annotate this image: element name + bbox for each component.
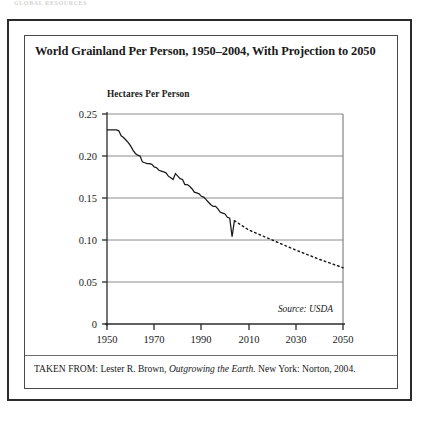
y-tick-label: 0.05 <box>79 277 97 288</box>
y-tick-label: 0.15 <box>79 193 97 204</box>
y-tick-label: 0.10 <box>79 235 97 246</box>
x-tick-label: 2030 <box>286 334 307 345</box>
section-divider <box>25 355 397 356</box>
x-tick-label: 1990 <box>191 334 212 345</box>
source-note: Source: USDA <box>278 304 333 314</box>
y-tick-label: 0 <box>92 319 97 330</box>
figure-title: World Grainland Per Person, 1950–2004, W… <box>35 43 387 59</box>
y-tick-label: 0.25 <box>79 109 97 120</box>
line-chart-svg: 0.25 0.20 0.15 0.10 0.05 0 1950 1970 199… <box>33 104 391 369</box>
attribution-text: TAKEN FROM: Lester R. Brown, Outgrowing … <box>34 362 386 376</box>
series-line-projection <box>234 221 343 268</box>
gridlines <box>107 114 343 282</box>
y-tick-label: 0.20 <box>79 151 97 162</box>
x-tick-label: 2050 <box>333 334 354 345</box>
attribution-prefix: TAKEN FROM: Lester R. Brown, <box>34 363 169 374</box>
x-tick-label: 1950 <box>97 334 118 345</box>
y-axis-title: Hectares Per Person <box>107 89 190 99</box>
page-running-head: GLOBAL RESOURCES <box>14 0 154 8</box>
chart-plot: 0.25 0.20 0.15 0.10 0.05 0 1950 1970 199… <box>33 104 391 369</box>
x-axis <box>105 324 345 330</box>
y-tick-labels: 0.25 0.20 0.15 0.10 0.05 0 <box>79 109 97 330</box>
x-tick-label: 2010 <box>239 334 260 345</box>
x-tick-labels: 1950 1970 1990 2010 2030 2050 <box>97 334 354 345</box>
attribution-suffix: New York: Norton, 2004. <box>256 363 356 374</box>
figure-inner-box: World Grainland Per Person, 1950–2004, W… <box>24 35 398 389</box>
x-tick-label: 1970 <box>144 334 165 345</box>
attribution-book-title: Outgrowing the Earth. <box>169 363 256 374</box>
y-axis <box>102 112 107 326</box>
series-line-historical <box>107 130 234 237</box>
figure-outer-frame: World Grainland Per Person, 1950–2004, W… <box>7 19 412 401</box>
